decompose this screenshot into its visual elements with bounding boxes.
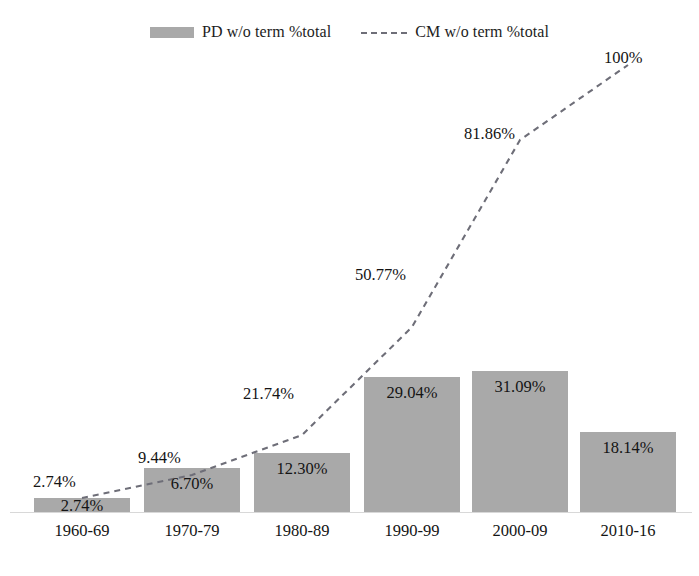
plot-area: 2.74% 6.70% 12.30% 29.04% 31.09% 18.14% … <box>0 0 699 576</box>
x-tick-label-2000-09: 2000-09 <box>472 521 568 541</box>
axis-baseline <box>10 512 692 513</box>
x-tick-label-1980-89: 1980-89 <box>254 521 350 541</box>
chart-page: PD w/o term %total CM w/o term %total 2.… <box>0 0 699 576</box>
x-tick-label-1970-79: 1970-79 <box>144 521 240 541</box>
x-axis: 1960-69 1970-79 1980-89 1990-99 2000-09 … <box>0 0 699 576</box>
x-tick-label-2010-16: 2010-16 <box>580 521 676 541</box>
x-tick-label-1990-99: 1990-99 <box>364 521 460 541</box>
x-tick-label-1960-69: 1960-69 <box>34 521 130 541</box>
